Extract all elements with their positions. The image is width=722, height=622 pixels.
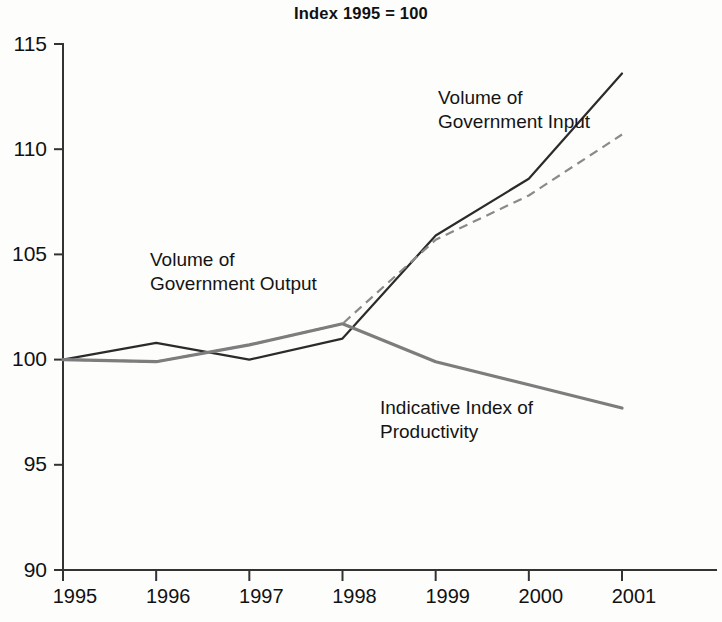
x-tick-label: 1998 [332, 585, 377, 607]
y-axis-ticks: 1151101051009590 [12, 32, 63, 581]
x-tick-label: 2001 [612, 585, 657, 607]
x-tick-label: 1999 [425, 585, 470, 607]
series-label-government-output: Volume of Government Output [150, 248, 317, 297]
x-tick-label: 1995 [53, 585, 98, 607]
series-label-government-input: Volume of Government Input [438, 86, 590, 135]
axes [63, 44, 716, 570]
x-axis-ticks: 1995199619971998199920002001 [53, 570, 657, 607]
x-tick-label: 1997 [239, 585, 284, 607]
y-tick-label: 100 [12, 347, 47, 370]
y-tick-label: 105 [12, 242, 47, 265]
y-tick-label: 90 [24, 558, 47, 581]
series-label-indicative-productivity: Indicative Index of Productivity [380, 396, 533, 445]
y-tick-label: 95 [24, 452, 47, 475]
y-tick-label: 110 [14, 137, 47, 160]
x-tick-label: 1996 [146, 585, 191, 607]
x-tick-label: 2000 [519, 585, 564, 607]
y-tick-label: 115 [14, 32, 47, 55]
series-line-indicative-productivity [63, 324, 622, 408]
chart-container: Index 1995 = 100 1151101051009590 199519… [0, 0, 722, 622]
plot-area: 1151101051009590 19951996199719981999200… [0, 0, 722, 622]
